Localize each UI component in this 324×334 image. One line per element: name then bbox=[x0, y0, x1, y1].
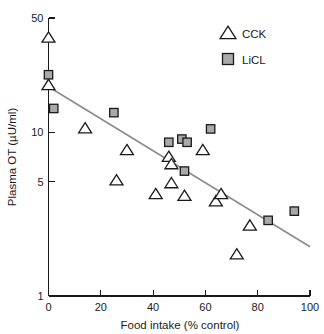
scatter-plot: 151050 020406080100 CCKLiCL Food intake … bbox=[0, 0, 324, 334]
legend-marker-cck bbox=[220, 26, 236, 39]
x-tick-label: 40 bbox=[147, 301, 159, 313]
legend-marker-licl bbox=[223, 54, 234, 65]
x-tick-label: 0 bbox=[45, 301, 51, 313]
data-point-cck bbox=[110, 175, 123, 185]
chart-legend: CCKLiCL bbox=[220, 26, 267, 65]
data-point-licl bbox=[264, 216, 272, 224]
data-point-cck bbox=[79, 123, 92, 133]
y-axis-label: Plasma OT (µU/ml) bbox=[6, 108, 18, 207]
data-point-cck bbox=[243, 220, 256, 230]
x-tick-label: 20 bbox=[95, 301, 107, 313]
y-axis-ticks: 151050 bbox=[31, 12, 54, 302]
data-point-licl bbox=[110, 108, 118, 116]
x-tick-label: 60 bbox=[199, 301, 211, 313]
data-point-licl bbox=[50, 104, 58, 112]
data-point-cck bbox=[230, 249, 243, 259]
data-point-cck bbox=[42, 32, 55, 42]
legend-label: CCK bbox=[242, 28, 267, 40]
y-tick-label: 5 bbox=[37, 176, 43, 188]
data-point-licl bbox=[183, 138, 191, 146]
data-point-licl bbox=[290, 207, 298, 215]
x-axis-ticks: 020406080100 bbox=[45, 290, 319, 313]
y-tick-label: 10 bbox=[31, 126, 43, 138]
y-tick-label: 1 bbox=[37, 290, 43, 302]
data-point-cck bbox=[149, 188, 162, 198]
data-point-cck bbox=[178, 190, 191, 200]
data-point-licl bbox=[44, 71, 52, 79]
series-cck bbox=[42, 32, 256, 259]
data-point-cck bbox=[42, 79, 55, 89]
series-licl bbox=[44, 71, 298, 225]
data-points bbox=[42, 32, 298, 259]
data-point-licl bbox=[206, 125, 214, 133]
x-tick-label: 80 bbox=[252, 301, 264, 313]
legend-label: LiCL bbox=[242, 54, 266, 66]
data-point-cck bbox=[196, 144, 209, 154]
x-axis-label: Food intake (% control) bbox=[121, 319, 240, 331]
data-point-licl bbox=[165, 138, 173, 146]
axes bbox=[49, 18, 311, 296]
data-point-licl bbox=[180, 167, 188, 175]
data-point-cck bbox=[165, 177, 178, 187]
x-tick-label: 100 bbox=[301, 301, 319, 313]
chart-figure: 151050 020406080100 CCKLiCL Food intake … bbox=[0, 0, 324, 334]
y-tick-label: 50 bbox=[31, 12, 43, 24]
data-point-cck bbox=[120, 144, 133, 154]
data-point-cck bbox=[162, 151, 175, 161]
